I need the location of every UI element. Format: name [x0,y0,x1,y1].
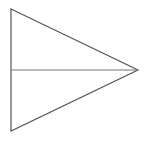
triangle-diagram-svg [0,0,148,142]
figure-canvas [0,0,148,142]
